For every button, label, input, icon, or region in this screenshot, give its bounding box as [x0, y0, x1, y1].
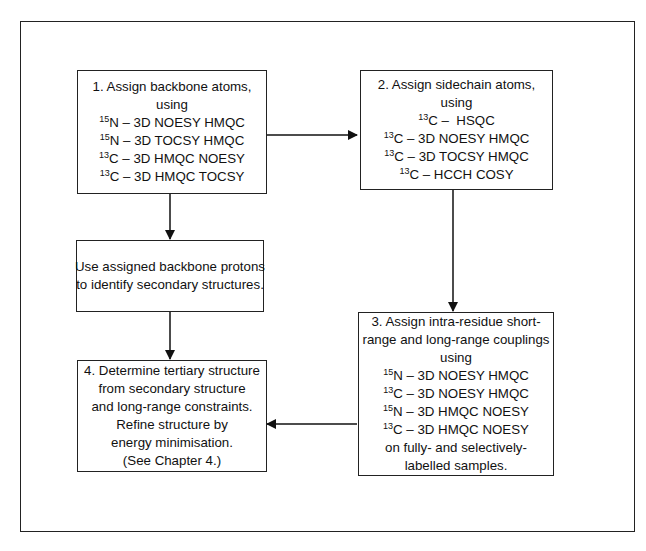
step4-line: and long-range constraints.: [91, 398, 252, 416]
secondary-structure-box: Use assigned backbone protons to identif…: [76, 240, 264, 312]
step2-title: 2. Assign sidechain atoms,: [378, 76, 535, 94]
step1-experiment: 13C – 3D HMQC NOESY: [99, 150, 245, 168]
step4-line: (See Chapter 4.): [123, 452, 221, 470]
step1-subtitle: using: [156, 96, 188, 114]
step3-line: 3. Assign intra-residue short-: [371, 313, 540, 331]
step1-experiment: 15N – 3D NOESY HMQC: [99, 114, 245, 132]
step3-line: range and long-range couplings: [362, 331, 549, 349]
step3-experiment: 13C – 3D HMQC NOESY: [383, 421, 529, 439]
step4-box: 4. Determine tertiary structure from sec…: [77, 360, 267, 472]
step3-line: using: [440, 349, 472, 367]
step4-line: energy minimisation.: [111, 434, 233, 452]
secondary-line: to identify secondary structures.: [76, 276, 264, 294]
step3-line: labelled samples.: [405, 457, 508, 475]
step1-experiment: 13C – 3D HMQC TOCSY: [100, 168, 245, 186]
step4-line: from secondary structure: [98, 380, 245, 398]
step1-box: 1. Assign backbone atoms, using 15N – 3D…: [77, 70, 267, 194]
secondary-line: Use assigned backbone protons: [75, 258, 265, 276]
step3-experiment: 15N – 3D HMQC NOESY: [383, 403, 529, 421]
step3-box: 3. Assign intra-residue short- range and…: [358, 312, 554, 476]
step3-experiment: 13C – 3D NOESY HMQC: [383, 385, 529, 403]
step4-line: 4. Determine tertiary structure: [84, 362, 260, 380]
step4-line: Refine structure by: [116, 416, 228, 434]
step3-line: on fully- and selectively-: [385, 439, 527, 457]
step2-experiment: 13C – HCCH COSY: [399, 166, 513, 184]
step2-experiment: 13C – HSQC: [418, 112, 495, 130]
step2-experiment: 13C – 3D TOCSY HMQC: [384, 148, 529, 166]
step3-experiment: 15N – 3D NOESY HMQC: [383, 367, 529, 385]
step2-box: 2. Assign sidechain atoms, using 13C – H…: [360, 70, 553, 190]
step1-title: 1. Assign backbone atoms,: [93, 78, 252, 96]
step2-subtitle: using: [441, 94, 473, 112]
step2-experiment: 13C – 3D NOESY HMQC: [384, 130, 530, 148]
step1-experiment: 15N – 3D TOCSY HMQC: [100, 132, 245, 150]
